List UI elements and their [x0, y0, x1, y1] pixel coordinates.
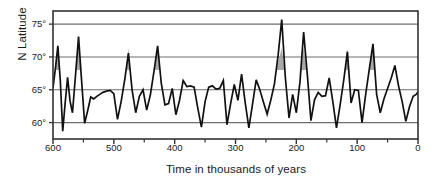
plot-frame — [53, 11, 418, 139]
line-chart-plot — [0, 0, 441, 184]
chart-figure: N Latitude Time in thousands of years 60… — [0, 0, 441, 184]
x-tick-label: 100 — [337, 142, 377, 153]
x-tick-label: 200 — [276, 142, 316, 153]
axis-ticks — [49, 24, 418, 144]
y-tick-label: 75° — [6, 18, 46, 29]
y-tick-label: 70° — [6, 51, 46, 62]
x-tick-label: 600 — [33, 142, 73, 153]
y-tick-label: 60° — [6, 117, 46, 128]
x-tick-label: 0 — [398, 142, 438, 153]
y-tick-label: 65° — [6, 84, 46, 95]
x-tick-label: 500 — [94, 142, 134, 153]
x-tick-label: 400 — [155, 142, 195, 153]
peak-shading — [55, 48, 375, 70]
y-axis-label: N Latitude — [16, 0, 28, 94]
x-axis-label: Time in thousands of years — [53, 163, 419, 175]
x-tick-label: 300 — [216, 142, 256, 153]
latitude-curve — [53, 20, 418, 132]
